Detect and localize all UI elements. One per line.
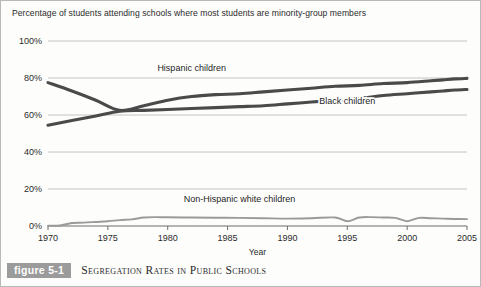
figure-caption-text: Segregation Rates in Public Schools <box>81 264 266 277</box>
line-chart: 0%20%40%60%80%100%1970197519801985199019… <box>1 1 481 261</box>
series-label: Black children <box>319 96 375 106</box>
y-axis-tick-label: 60% <box>24 110 42 120</box>
series-label: Hispanic children <box>157 63 226 73</box>
x-axis-tick-label: 1995 <box>337 233 357 243</box>
x-axis-tick-label: 2000 <box>397 233 417 243</box>
x-axis-tick-label: 1970 <box>38 233 58 243</box>
figure-container: Percentage of students attending schools… <box>0 0 481 287</box>
series-line <box>48 217 467 226</box>
x-axis-tick-label: 2005 <box>457 233 477 243</box>
y-axis-tick-label: 20% <box>24 184 42 194</box>
y-axis-tick-label: 80% <box>24 73 42 83</box>
x-axis-tick-label: 1990 <box>277 233 297 243</box>
x-axis-tick-label: 1985 <box>218 233 238 243</box>
series-label: Non-Hispanic white children <box>184 194 296 204</box>
x-axis-title: Year <box>249 247 267 257</box>
x-axis-tick-label: 1975 <box>98 233 118 243</box>
y-axis-tick-label: 100% <box>19 36 42 46</box>
figure-caption: figure 5-1 Segregation Rates in Public S… <box>7 263 266 278</box>
figure-number-badge: figure 5-1 <box>7 263 71 278</box>
x-axis-tick-label: 1980 <box>158 233 178 243</box>
y-axis-tick-label: 0% <box>29 221 42 231</box>
y-axis-tick-label: 40% <box>24 147 42 157</box>
